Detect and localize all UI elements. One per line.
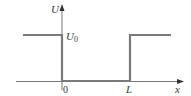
potential-well-diagram <box>0 0 191 96</box>
potential-profile <box>23 35 171 81</box>
x-axis-label: x <box>175 84 180 95</box>
barrier-height-symbol: U <box>66 30 74 42</box>
u-axis-arrow-icon <box>60 4 65 11</box>
origin-tick-label: 0 <box>63 84 68 95</box>
barrier-height-subscript: 0 <box>74 35 78 44</box>
well-width-tick-label: L <box>126 84 132 95</box>
u-axis-label: U <box>51 4 59 15</box>
barrier-height-label: U0 <box>66 31 78 45</box>
